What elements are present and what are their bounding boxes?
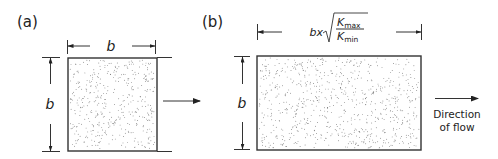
stipple-dot <box>324 75 325 76</box>
stipple-dot <box>368 71 369 72</box>
stipple-dot <box>362 93 363 94</box>
stipple-dot <box>108 122 109 123</box>
stipple-dot <box>325 89 326 90</box>
stipple-dot <box>111 121 112 122</box>
stipple-dot <box>120 105 121 106</box>
stipple-dot <box>127 68 128 69</box>
stipple-dot <box>392 136 393 137</box>
stipple-dot <box>74 146 75 147</box>
stipple-dot <box>79 115 80 116</box>
stipple-dot <box>342 89 343 90</box>
stipple-dot <box>128 131 129 132</box>
stipple-dot <box>154 136 155 137</box>
stipple-dot <box>270 85 271 86</box>
stipple-dot <box>410 90 411 91</box>
stipple-dot <box>269 73 270 74</box>
stipple-dot <box>361 128 362 129</box>
stipple-dot <box>395 87 396 88</box>
stipple-dot <box>373 142 374 143</box>
stipple-dot <box>104 67 105 68</box>
stipple-dot <box>330 135 331 136</box>
stipple-dot <box>363 141 364 142</box>
stipple-dot <box>332 88 333 89</box>
stipple-dot <box>295 68 296 69</box>
stipple-dot <box>260 86 261 87</box>
stipple-dot <box>90 111 91 112</box>
stipple-dot <box>291 108 292 109</box>
stipple-dot <box>328 75 329 76</box>
stipple-dot <box>76 83 77 84</box>
stipple-dot <box>301 86 302 87</box>
stipple-dot <box>153 73 154 74</box>
stipple-dot <box>87 105 88 106</box>
stipple-dot <box>133 132 134 133</box>
stipple-dot <box>104 87 105 88</box>
stipple-dot <box>313 63 314 64</box>
stipple-dot <box>136 123 137 124</box>
stipple-dot <box>264 66 265 67</box>
stipple-dot <box>101 112 102 113</box>
stipple-dot <box>138 101 139 102</box>
stipple-dot <box>390 111 391 112</box>
stipple-dot <box>138 88 139 89</box>
stipple-dot <box>348 99 349 100</box>
stipple-dot <box>104 108 105 109</box>
stipple-dot <box>128 78 129 79</box>
stipple-dot <box>307 90 308 91</box>
stipple-dot <box>100 141 101 142</box>
stipple-dot <box>385 59 386 60</box>
stipple-dot <box>136 112 137 113</box>
stipple-dot <box>327 111 328 112</box>
stipple-dot <box>135 72 136 73</box>
stipple-dot <box>147 89 148 90</box>
stipple-dot <box>339 128 340 129</box>
stipple-dot <box>357 145 358 146</box>
stipple-dot <box>109 63 110 64</box>
stipple-dot <box>77 102 78 103</box>
stipple-dot <box>390 82 391 83</box>
stipple-dot <box>292 127 293 128</box>
stipple-dot <box>72 100 73 101</box>
stipple-dot <box>354 130 355 131</box>
stipple-dot <box>304 101 305 102</box>
stipple-dot <box>331 112 332 113</box>
stipple-dot <box>285 95 286 96</box>
stipple-dot <box>412 92 413 93</box>
stipple-dot <box>123 95 124 96</box>
stipple-dot <box>322 62 323 63</box>
stipple-dot <box>313 83 314 84</box>
stipple-dot <box>327 108 328 109</box>
stipple-dot <box>351 118 352 119</box>
stipple-dot <box>145 79 146 80</box>
stipple-dot <box>114 122 115 123</box>
stipple-dot <box>78 105 79 106</box>
stipple-dot <box>287 77 288 78</box>
stipple-dot <box>322 58 323 59</box>
stipple-dot <box>113 123 114 124</box>
stipple-dot <box>295 125 296 126</box>
stipple-dot <box>365 143 366 144</box>
stipple-dot <box>141 85 142 86</box>
stipple-dot <box>293 135 294 136</box>
stipple-dot <box>344 133 345 134</box>
stipple-dot <box>355 88 356 89</box>
stipple-dot <box>118 78 119 79</box>
stipple-dot <box>353 92 354 93</box>
stipple-dot <box>335 129 336 130</box>
panel-b: (b) bx Kmax Kmin <box>202 13 422 150</box>
stipple-dot <box>378 84 379 85</box>
stipple-dot <box>95 117 96 118</box>
stipple-dot <box>347 96 348 97</box>
stipple-dot <box>409 147 410 148</box>
stipple-dot <box>283 136 284 137</box>
stipple-dot <box>354 119 355 120</box>
stipple-dot <box>132 62 133 63</box>
stipple-dot <box>313 100 314 101</box>
stipple-dot <box>102 130 103 131</box>
stipple-dot <box>408 96 409 97</box>
stipple-dot <box>345 94 346 95</box>
stipple-dot <box>335 76 336 77</box>
stipple-dot <box>78 87 79 88</box>
stipple-dot <box>415 99 416 100</box>
stipple-dot <box>124 117 125 118</box>
